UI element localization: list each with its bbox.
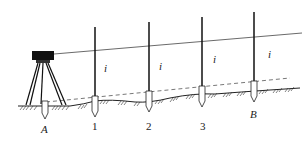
height-label-i-3: i [213, 53, 216, 65]
height-label-i-1: i [104, 62, 107, 74]
leveling-diagram: i i i i A 1 2 3 B [0, 0, 302, 147]
level-instrument [26, 51, 66, 105]
point-label-1: 1 [92, 120, 98, 132]
height-label-i-4: i [268, 48, 271, 60]
staff-pole-1 [92, 27, 98, 117]
sight-line [54, 33, 302, 54]
staff-pole-3 [199, 17, 205, 107]
tripod-icon [26, 63, 66, 105]
staff-pole-2 [146, 22, 152, 112]
instrument-base [36, 60, 50, 63]
height-label-i-2: i [159, 60, 162, 72]
point-label-A: A [40, 123, 48, 135]
stake-A [42, 101, 48, 119]
point-label-B: B [250, 108, 257, 120]
point-label-2: 2 [146, 120, 152, 132]
staff-pole-B [251, 12, 257, 102]
instrument-body [32, 51, 54, 60]
point-label-3: 3 [200, 120, 206, 132]
